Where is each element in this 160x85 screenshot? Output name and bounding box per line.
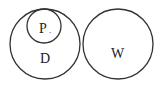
label-p: P — [39, 21, 47, 36]
circle-w — [83, 9, 153, 79]
circle-d — [10, 9, 80, 79]
label-p-dot: . — [49, 25, 51, 35]
label-d: D — [40, 51, 50, 66]
euler-diagram: P . D W — [0, 0, 160, 85]
label-w: W — [111, 46, 125, 61]
